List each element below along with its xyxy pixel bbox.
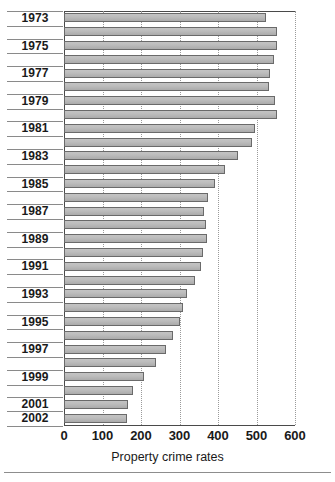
bar-1986 bbox=[64, 193, 208, 202]
bar-1999 bbox=[64, 372, 144, 381]
y-tick-label-1985: 1985 bbox=[7, 177, 63, 193]
bar-1998 bbox=[64, 358, 156, 367]
y-tick-label-1979: 1979 bbox=[7, 94, 63, 110]
bar-slot bbox=[64, 177, 295, 191]
bar-slot bbox=[64, 94, 295, 108]
bar-slot bbox=[64, 39, 295, 53]
bar-1988 bbox=[64, 220, 206, 229]
bar-1975 bbox=[64, 41, 277, 50]
y-tick-label-1993: 1993 bbox=[7, 287, 63, 303]
y-tick-label-1975: 1975 bbox=[7, 39, 63, 55]
bar-slot bbox=[64, 190, 295, 204]
bar-1993 bbox=[64, 289, 187, 298]
bar-slot bbox=[64, 273, 295, 287]
bar-slot bbox=[64, 328, 295, 342]
x-axis-tick-labels: 0100200300400500600 bbox=[0, 428, 335, 446]
bar-slot bbox=[64, 52, 295, 66]
y-tick-label-1989: 1989 bbox=[7, 232, 63, 248]
bar-1991 bbox=[64, 262, 201, 271]
bar-slot bbox=[64, 108, 295, 122]
y-tick-label-1995: 1995 bbox=[7, 315, 63, 331]
bar-1983 bbox=[64, 151, 238, 160]
bar-1992 bbox=[64, 276, 195, 285]
bar-1974 bbox=[64, 27, 277, 36]
bar-slot bbox=[64, 384, 295, 398]
bar-slot bbox=[64, 397, 295, 411]
gridline-600 bbox=[295, 11, 296, 425]
y-tick-label-1997: 1997 bbox=[7, 342, 63, 358]
bar-1980 bbox=[64, 110, 277, 119]
plot-area bbox=[64, 11, 295, 425]
bar-slot bbox=[64, 149, 295, 163]
bar-1973 bbox=[64, 13, 266, 22]
bar-slot bbox=[64, 259, 295, 273]
bar-slot bbox=[64, 287, 295, 301]
bar-2001 bbox=[64, 400, 128, 409]
bar-1976 bbox=[64, 55, 274, 64]
y-axis-tick-labels: 1973197519771979198119831985198719891991… bbox=[0, 11, 64, 425]
bar-slot bbox=[64, 301, 295, 315]
bar-2000 bbox=[64, 386, 133, 395]
bar-1997 bbox=[64, 345, 166, 354]
bar-1979 bbox=[64, 96, 275, 105]
bar-slot bbox=[64, 218, 295, 232]
bar-2002 bbox=[64, 414, 127, 423]
bar-slot bbox=[64, 66, 295, 80]
y-tick-label-1981: 1981 bbox=[7, 121, 63, 137]
bar-1981 bbox=[64, 124, 255, 133]
bar-slot bbox=[64, 246, 295, 260]
y-tick-label-1987: 1987 bbox=[7, 204, 63, 220]
y-tick-label-1991: 1991 bbox=[7, 259, 63, 275]
y-tick-label-1977: 1977 bbox=[7, 66, 63, 82]
bar-1995 bbox=[64, 317, 180, 326]
bar-1982 bbox=[64, 138, 252, 147]
bar-slot bbox=[64, 356, 295, 370]
bar-1996 bbox=[64, 331, 173, 340]
bar-slot bbox=[64, 370, 295, 384]
bar-1987 bbox=[64, 207, 204, 216]
y-tick-label-1999: 1999 bbox=[7, 370, 63, 386]
bar-1989 bbox=[64, 234, 207, 243]
bar-1984 bbox=[64, 165, 225, 174]
y-tick-label-1973: 1973 bbox=[7, 11, 63, 27]
bar-1978 bbox=[64, 82, 269, 91]
bar-series bbox=[64, 11, 295, 425]
bar-slot bbox=[64, 25, 295, 39]
chart-figure: 1973197519771979198119831985198719891991… bbox=[0, 0, 335, 482]
y-tick-label-1983: 1983 bbox=[7, 149, 63, 165]
bar-slot bbox=[64, 204, 295, 218]
bar-slot bbox=[64, 315, 295, 329]
bar-1990 bbox=[64, 248, 203, 257]
y-tick-label-2002: 2002 bbox=[7, 411, 63, 427]
bar-slot bbox=[64, 80, 295, 94]
bar-1985 bbox=[64, 179, 215, 188]
figure-bottom-rule bbox=[4, 472, 331, 473]
bar-1977 bbox=[64, 69, 270, 78]
bar-slot bbox=[64, 11, 295, 25]
bar-slot bbox=[64, 342, 295, 356]
bar-slot bbox=[64, 163, 295, 177]
bar-slot bbox=[64, 232, 295, 246]
x-tick-label-600: 600 bbox=[270, 428, 320, 443]
bar-1994 bbox=[64, 303, 183, 312]
x-axis-line bbox=[64, 425, 295, 426]
x-axis-title: Property crime rates bbox=[0, 450, 335, 464]
bar-slot bbox=[64, 121, 295, 135]
bar-slot bbox=[64, 411, 295, 425]
bar-slot bbox=[64, 135, 295, 149]
